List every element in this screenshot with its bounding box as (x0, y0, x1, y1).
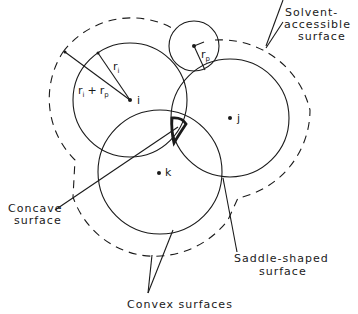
solvent-accessible-surface (49, 18, 310, 256)
atom-k-label: k (165, 166, 172, 179)
saddle-label: Saddle-shaped (234, 252, 329, 265)
saddle-label-2: surface (259, 265, 307, 278)
atom-i-label: i (137, 94, 140, 107)
convex-label: Convex surfaces (127, 298, 233, 311)
ri-label: ri (113, 60, 120, 75)
solvent-accessible-label-3: surface (298, 30, 346, 43)
ri-plus-rp-label: ri+rp (78, 84, 109, 99)
concave-label-2: surface (14, 214, 62, 227)
rp-label: rp (201, 48, 211, 63)
surface-diagram: i j k ri ri+rp rp Solvent- accessible su… (0, 0, 358, 314)
atom-j-label: j (236, 112, 240, 125)
